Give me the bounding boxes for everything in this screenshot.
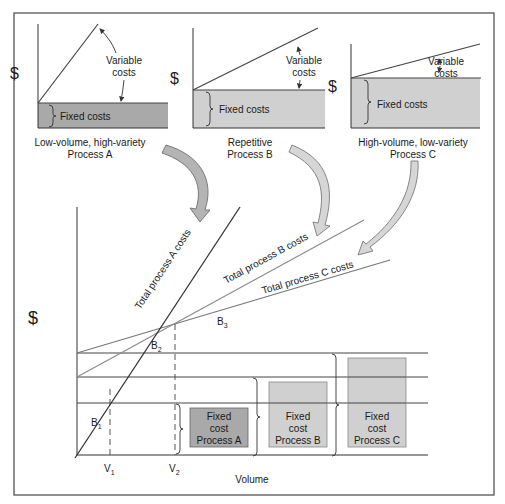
dollar-label-c: $ [328,78,337,95]
dollar-label-a: $ [10,65,19,82]
variable-label-c-2: costs [434,68,457,79]
fixed-box-a-line2: cost [210,423,229,434]
variable-label-c-1: Variable [428,56,464,67]
main-dollar-label: $ [28,308,38,328]
caption-b-2: Process B [227,149,273,160]
fixed-box-b-line1: Fixed [286,411,310,422]
fixed-box-c-line2: cost [368,423,387,434]
fixed-label-c: Fixed costs [377,99,428,110]
caption-c-2: Process C [390,149,436,160]
process-cost-diagram: Fixed costs $ Variable costs Low-volume,… [0,0,505,504]
main-volume-label: Volume [235,474,269,485]
caption-b-1: Repetitive [228,137,273,148]
variable-label-b-1: Variable [286,55,322,66]
fixed-box-a-line3: Process A [196,435,241,446]
fixed-label-a: Fixed costs [60,111,111,122]
fixed-box-a-line1: Fixed [207,411,231,422]
variable-label-a-1: Variable [106,55,142,66]
variable-label-b-2: costs [292,67,315,78]
dollar-label-b: $ [170,70,179,87]
fixed-box-c-line3: Process C [354,435,400,446]
variable-label-a-2: costs [112,67,135,78]
caption-a-2: Process A [67,149,112,160]
caption-a-1: Low-volume, high-variety [34,137,145,148]
fixed-label-b: Fixed costs [219,104,270,115]
fixed-box-c-line1: Fixed [365,411,389,422]
fixed-box-b-line3: Process B [275,435,321,446]
fixed-box-b-line2: cost [289,423,308,434]
caption-c-1: High-volume, low-variety [358,137,467,148]
